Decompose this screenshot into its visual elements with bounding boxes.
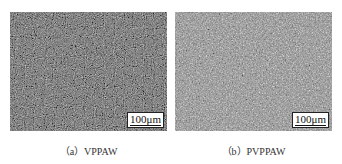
- scale-bar: 100μm: [292, 112, 329, 128]
- caption-a: （a）VPPAW: [10, 143, 167, 158]
- micrograph-vppaw: 100μm: [10, 12, 167, 131]
- micrograph-pvppaw: 100μm: [175, 12, 332, 131]
- caption-b: （b）PVPPAW: [175, 143, 332, 158]
- scale-bar: 100μm: [127, 112, 164, 128]
